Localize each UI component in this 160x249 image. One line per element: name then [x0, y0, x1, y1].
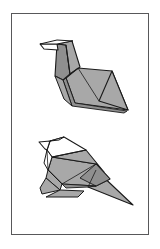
figure-bottom: [39, 137, 133, 205]
figure-panel: [0, 0, 160, 249]
figure-top-beak: [40, 44, 58, 50]
figure-top: [40, 40, 128, 113]
origami-diagram-svg: [0, 0, 160, 249]
